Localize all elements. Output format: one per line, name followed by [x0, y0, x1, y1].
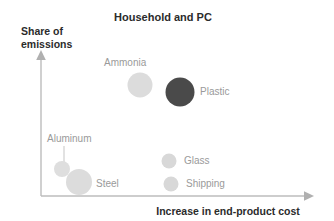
bubble-chart: Household and PC Share of emissions Incr… [0, 0, 334, 221]
bubble-aluminum[interactable] [54, 161, 70, 177]
bubble-label-plastic: Plastic [200, 86, 229, 97]
bubble-label-glass: Glass [184, 155, 210, 166]
arrow-up-icon [36, 50, 46, 60]
bubble-shipping[interactable] [164, 177, 179, 192]
bubble-label-steel: Steel [96, 178, 119, 189]
bubble-plastic[interactable] [166, 78, 195, 107]
bubble-ammonia[interactable] [128, 73, 153, 98]
y-axis-title-line2: emissions [21, 38, 73, 50]
y-axis-title-line1: Share of [21, 25, 64, 37]
x-axis-title: Increase in end-product cost [156, 205, 300, 217]
bubble-glass[interactable] [162, 154, 177, 169]
arrow-right-icon [304, 191, 314, 201]
chart-canvas: Household and PC Share of emissions Incr… [0, 0, 334, 221]
bubble-label-shipping: Shipping [186, 178, 225, 189]
chart-title: Household and PC [114, 11, 212, 23]
bubble-label-ammonia: Ammonia [104, 57, 147, 68]
bubble-label-aluminum: Aluminum [47, 133, 91, 144]
bubble-steel[interactable] [66, 169, 92, 195]
